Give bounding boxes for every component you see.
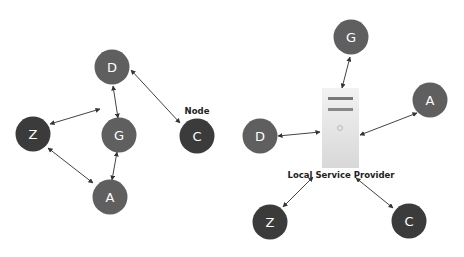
edge-z-a (48, 148, 93, 183)
svg-text:Z: Z (29, 127, 38, 142)
edge-server-g (342, 57, 350, 88)
edge-server-a (360, 113, 417, 135)
node-z: Z (253, 205, 288, 240)
node-annotation: Node (185, 106, 210, 116)
edge-server-z (283, 177, 313, 207)
svg-text:C: C (192, 129, 201, 144)
edge-server-d (278, 132, 320, 136)
edge-d-z (50, 109, 100, 124)
edge-server-c (356, 178, 393, 208)
node-g: G (102, 118, 137, 153)
edge-d-c (131, 70, 180, 123)
edge-d-g (113, 86, 118, 118)
svg-text:C: C (404, 214, 413, 229)
svg-text:Z: Z (266, 215, 275, 230)
server-caption: Local Service Provider (288, 170, 396, 180)
edge-g-a (112, 152, 117, 180)
svg-text:D: D (107, 60, 117, 75)
network-diagrams: D G Z Node C A (0, 0, 464, 257)
node-d: D (243, 119, 278, 154)
node-a: A (413, 83, 448, 118)
node-c: C (392, 204, 427, 239)
left-diagram: D G Z Node C A (16, 50, 215, 215)
svg-text:G: G (346, 30, 356, 45)
right-diagram: Local Service Provider G A D Z C (243, 20, 448, 240)
svg-text:D: D (255, 129, 265, 144)
svg-text:A: A (426, 93, 435, 108)
node-g: G (334, 20, 369, 55)
node-c: Node C (180, 106, 215, 154)
node-d: D (95, 50, 130, 85)
node-a: A (93, 180, 128, 215)
svg-text:G: G (114, 128, 124, 143)
svg-text:A: A (106, 190, 115, 205)
node-z: Z (16, 117, 51, 152)
